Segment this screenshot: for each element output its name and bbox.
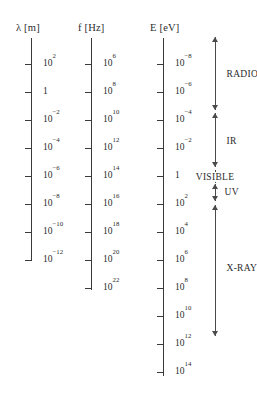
band-range-line	[215, 113, 216, 167]
arrowhead-up-icon	[212, 205, 218, 210]
band-range-line	[215, 37, 216, 110]
band-label-radio: RADIO	[225, 69, 257, 79]
electromagnetic-spectrum-diagram: λ [m]102110−210−410−610−810−1010−12f [Hz…	[0, 0, 257, 402]
arrowhead-down-icon	[212, 105, 218, 110]
arrowhead-up-icon	[212, 37, 218, 42]
arrowhead-down-icon	[212, 331, 218, 336]
arrowhead-up-icon	[212, 113, 218, 118]
arrowhead-up-icon	[212, 184, 218, 189]
arrowhead-down-icon	[212, 162, 218, 167]
band-label-ir: IR	[225, 136, 238, 146]
band-label-visible: VISIBLE	[194, 172, 236, 182]
arrowhead-down-icon	[212, 196, 218, 201]
spectrum-bands-layer: RADIOIRVISIBLEUVX-RAYS	[0, 0, 257, 402]
band-label-x-rays: X-RAYS	[225, 263, 257, 273]
band-range-line	[215, 205, 216, 336]
band-label-uv: UV	[223, 187, 240, 197]
